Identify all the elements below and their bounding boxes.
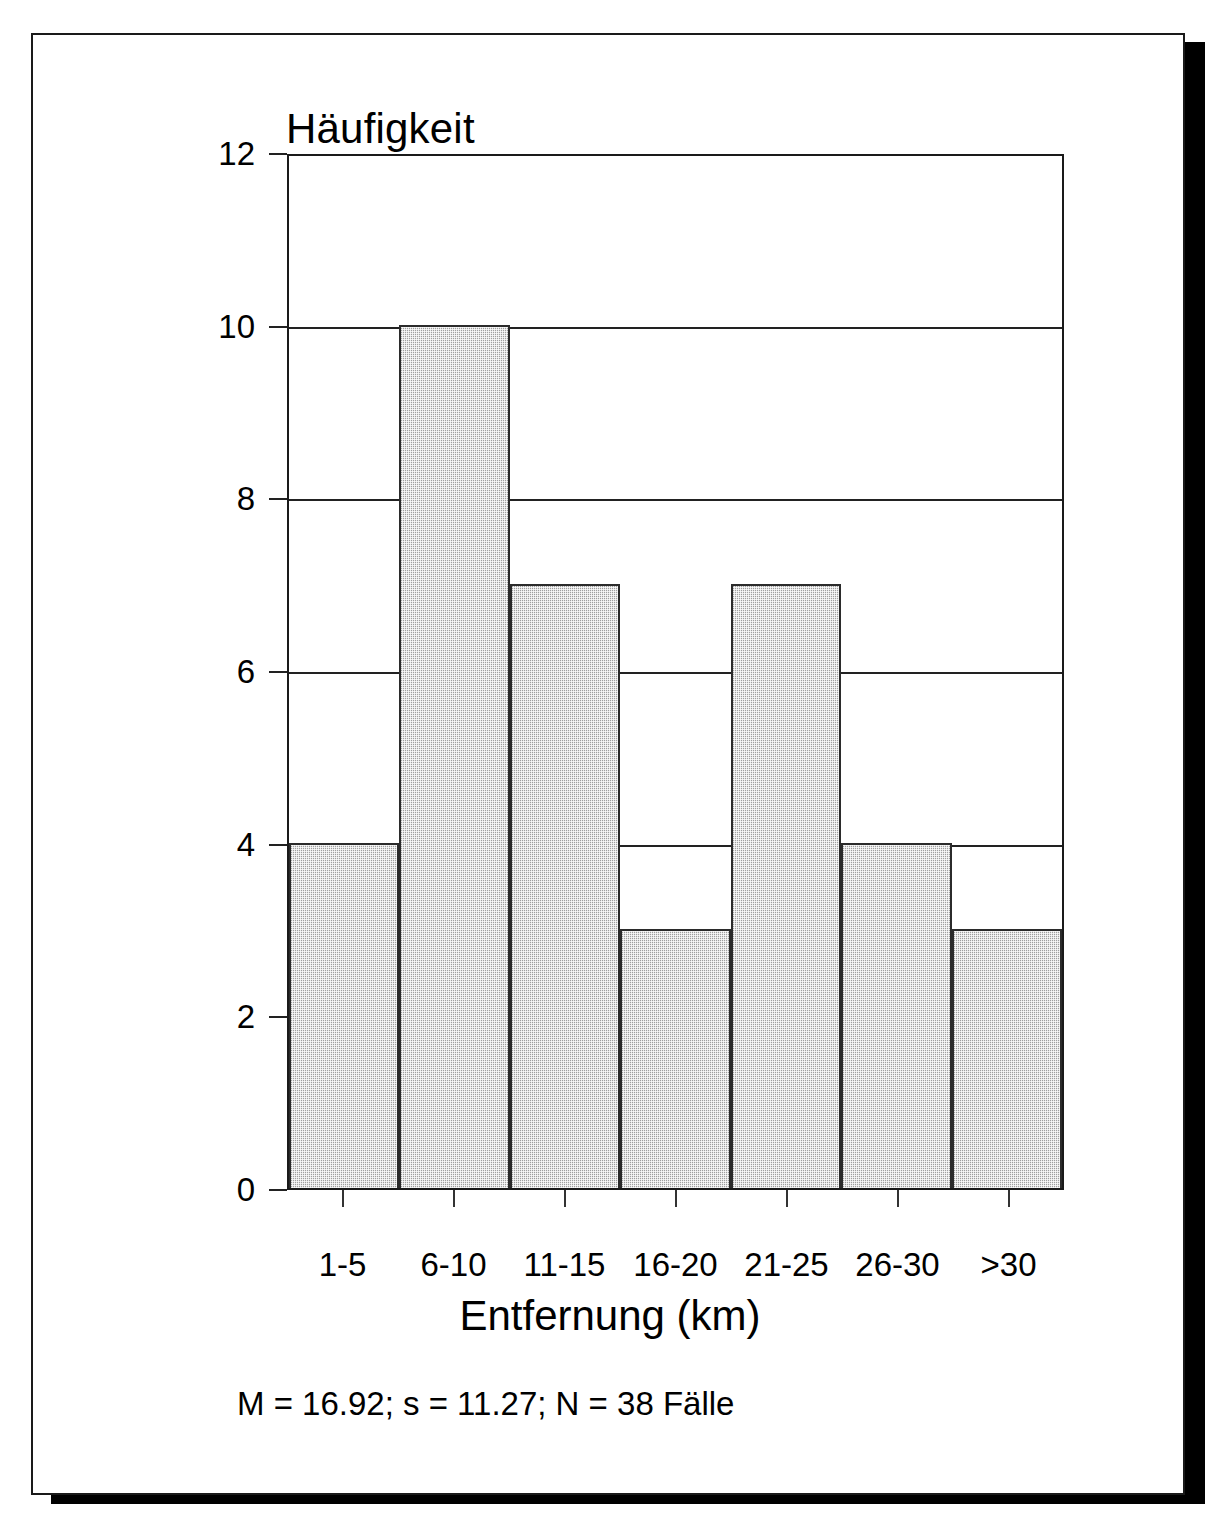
x-tick-label: >30 (981, 1248, 1037, 1281)
x-tick-mark (786, 1190, 788, 1207)
y-tick-mark (269, 1016, 287, 1018)
bar (510, 584, 620, 1188)
x-tick-label: 16-20 (633, 1248, 717, 1281)
y-tick-label: 4 (185, 828, 255, 861)
statistics-caption: M = 16.92; s = 11.27; N = 38 Fälle (237, 1385, 734, 1423)
bar (952, 929, 1062, 1188)
y-tick-mark (269, 671, 287, 673)
plot-area (287, 154, 1064, 1190)
x-tick-mark (453, 1190, 455, 1207)
y-tick-label: 10 (185, 310, 255, 343)
y-tick-label: 8 (185, 482, 255, 515)
y-tick-mark (269, 844, 287, 846)
x-tick-mark (897, 1190, 899, 1207)
chart-title: Häufigkeit (286, 105, 475, 153)
y-tick-mark (269, 153, 287, 155)
x-tick-mark (342, 1190, 344, 1207)
y-tick-label: 6 (185, 655, 255, 688)
bar (731, 584, 841, 1188)
bar (289, 843, 399, 1188)
x-tick-label: 11-15 (524, 1248, 606, 1281)
y-tick-mark (269, 1189, 287, 1191)
y-tick-label: 12 (185, 137, 255, 170)
x-tick-label: 21-25 (744, 1248, 828, 1281)
y-tick-label: 0 (185, 1173, 255, 1206)
y-tick-label: 2 (185, 1000, 255, 1033)
x-tick-label: 1-5 (319, 1248, 367, 1281)
x-tick-mark (1008, 1190, 1010, 1207)
x-axis-title: Entfernung (km) (33, 1292, 1187, 1340)
x-tick-label: 6-10 (420, 1248, 486, 1281)
bar (399, 325, 509, 1188)
y-tick-mark (269, 498, 287, 500)
y-tick-mark (269, 326, 287, 328)
bar-series (289, 156, 1062, 1188)
page-sheet: Häufigkeit 024681012 1-56-1011-1516-2021… (31, 33, 1185, 1495)
histogram-chart: Häufigkeit 024681012 1-56-1011-1516-2021… (33, 35, 1187, 1497)
bar (620, 929, 730, 1188)
x-tick-mark (675, 1190, 677, 1207)
bar (841, 843, 951, 1188)
x-tick-mark (564, 1190, 566, 1207)
x-tick-label: 26-30 (855, 1248, 939, 1281)
